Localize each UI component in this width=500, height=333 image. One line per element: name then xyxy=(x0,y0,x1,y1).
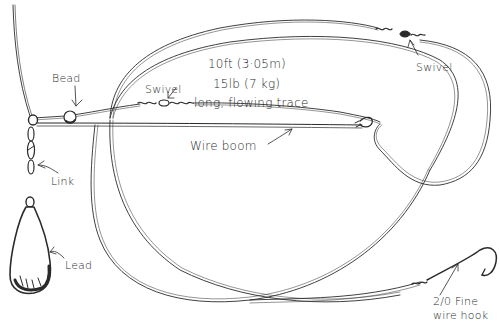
fishing-rig-diagram: Bead Swivel Swivel 10ft (3·05m) 15lb (7 … xyxy=(0,0,500,333)
wire-boom xyxy=(37,117,372,128)
bead-line xyxy=(34,104,140,120)
hook xyxy=(412,248,496,284)
wire-boom-label: Wire boom xyxy=(190,140,257,152)
link-label: Link xyxy=(51,176,74,187)
lead-label: Lead xyxy=(65,260,92,271)
boom-ring xyxy=(29,115,38,125)
hook-label-line2: wire hook xyxy=(433,309,488,323)
hook-label: 2/0 Fine wire hook xyxy=(433,295,488,323)
swivel-left xyxy=(138,100,194,106)
swivel-left-label: Swivel xyxy=(145,84,182,95)
link-chain xyxy=(26,127,35,207)
lead-weight xyxy=(10,207,50,293)
trace-length-label: 10ft (3·05m) xyxy=(208,58,286,70)
bead-label: Bead xyxy=(52,73,81,84)
hook-label-line1: 2/0 Fine xyxy=(433,295,488,309)
bead xyxy=(64,111,76,123)
swivel-right-label: Swivel xyxy=(416,62,453,73)
main-line xyxy=(13,5,32,116)
trace-description-label: long, flowing trace xyxy=(194,97,309,109)
swivel-right xyxy=(376,28,425,37)
trace-strength-label: 15lb (7 kg) xyxy=(213,78,280,90)
rig-drawing xyxy=(0,0,500,333)
